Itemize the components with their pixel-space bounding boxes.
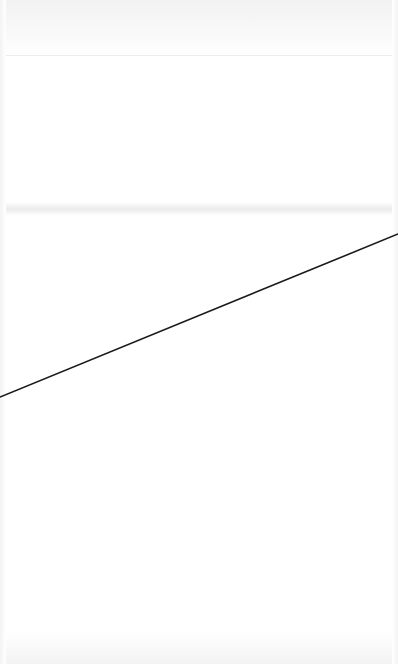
diagonal-line [0,234,398,397]
line-canvas [0,0,398,664]
